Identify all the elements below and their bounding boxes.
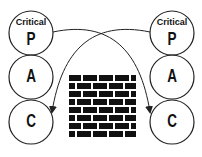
left-critical-label: Critical: [9, 17, 53, 27]
pac-diagram: Critical P A C Critical P A C: [0, 0, 202, 157]
right-critical-label: Critical: [150, 17, 194, 27]
right-a-label: A: [156, 66, 189, 87]
left-p-label: P: [15, 29, 48, 50]
right-p-label: P: [156, 29, 189, 50]
brick-wall-icon: [69, 75, 136, 137]
right-c-label: C: [156, 111, 189, 132]
left-c-label: C: [15, 111, 48, 132]
left-a-label: A: [15, 66, 48, 87]
